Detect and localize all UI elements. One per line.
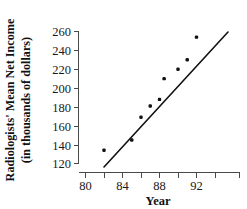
y-tick-label-180: 180 (52, 101, 71, 115)
data-point (102, 149, 105, 152)
data-point (162, 77, 165, 80)
data-point (186, 58, 189, 61)
y-axis-label-line2: (in thousands of dollars) (19, 37, 33, 163)
x-tick-label-84: 84 (116, 179, 129, 193)
x-tick-label-88: 88 (153, 179, 166, 193)
y-tick-label-220: 220 (52, 63, 71, 77)
x-tick-labels: 80 84 88 92 (79, 179, 203, 193)
y-tick-marks (74, 32, 79, 164)
y-axis-label: Radiologists' Mean Net Income (in thousa… (3, 18, 33, 181)
data-points-layer (102, 35, 198, 152)
y-tick-label-200: 200 (52, 82, 71, 96)
x-axis-title: Year (146, 194, 171, 208)
data-point (176, 68, 179, 71)
y-tick-label-260: 260 (52, 25, 71, 39)
trend-line (104, 32, 228, 167)
data-point (195, 35, 198, 38)
data-point (139, 116, 142, 119)
y-tick-labels: 260 240 220 200 180 160 140 120 (52, 25, 71, 171)
y-tick-label-160: 160 (52, 120, 71, 134)
x-tick-marks (86, 173, 240, 178)
y-axis-label-line1: Radiologists' Mean Net Income (3, 18, 17, 181)
y-tick-label-140: 140 (52, 139, 71, 153)
scatter-plot-figure: Radiologists' Mean Net Income (in thousa… (0, 0, 247, 209)
chart-canvas: Radiologists' Mean Net Income (in thousa… (0, 0, 247, 209)
data-point (158, 98, 161, 101)
y-tick-label-240: 240 (52, 44, 71, 58)
data-point (130, 138, 133, 141)
y-tick-label-120: 120 (52, 157, 71, 171)
x-tick-label-92: 92 (190, 179, 203, 193)
data-point (149, 104, 152, 107)
x-tick-label-80: 80 (79, 179, 92, 193)
